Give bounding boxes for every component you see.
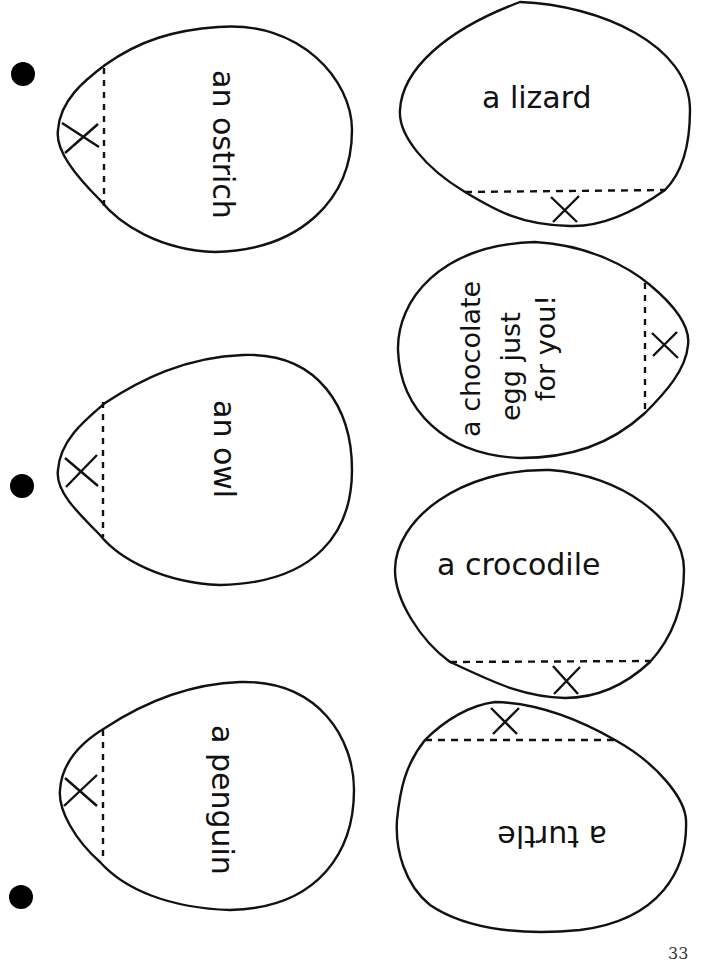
- punch-hole: [9, 885, 33, 909]
- x-mark-icon: [553, 666, 580, 694]
- egg-label-turtle: a turtle: [497, 819, 607, 854]
- egg-turtle[interactable]: [397, 702, 686, 932]
- egg-label-chocolate-line1: a chocolate: [455, 281, 486, 437]
- egg-label-chocolate-line2: egg just: [495, 312, 526, 421]
- x-mark-icon: [65, 455, 98, 487]
- punch-hole: [10, 474, 34, 498]
- fold-line: [450, 661, 650, 662]
- page-number: 33: [668, 944, 688, 963]
- egg-label-penguin: a penguin: [205, 725, 240, 875]
- x-mark-icon: [551, 196, 579, 222]
- x-mark-icon: [652, 332, 678, 358]
- egg-owl[interactable]: [58, 355, 352, 585]
- egg-crocodile[interactable]: [395, 470, 684, 698]
- egg-label-owl: an owl: [207, 400, 242, 498]
- x-mark-icon: [64, 775, 97, 806]
- egg-label-chocolate-line3: for you!: [530, 295, 561, 401]
- egg-label-crocodile: a crocodile: [437, 547, 600, 582]
- egg-ostrich[interactable]: [58, 26, 352, 252]
- egg-label-ostrich: an ostrich: [206, 70, 241, 219]
- x-mark-icon: [491, 708, 519, 734]
- egg-label-lizard: a lizard: [482, 80, 592, 115]
- punch-hole: [11, 62, 35, 86]
- fold-line: [465, 190, 665, 192]
- x-mark-icon: [62, 123, 99, 153]
